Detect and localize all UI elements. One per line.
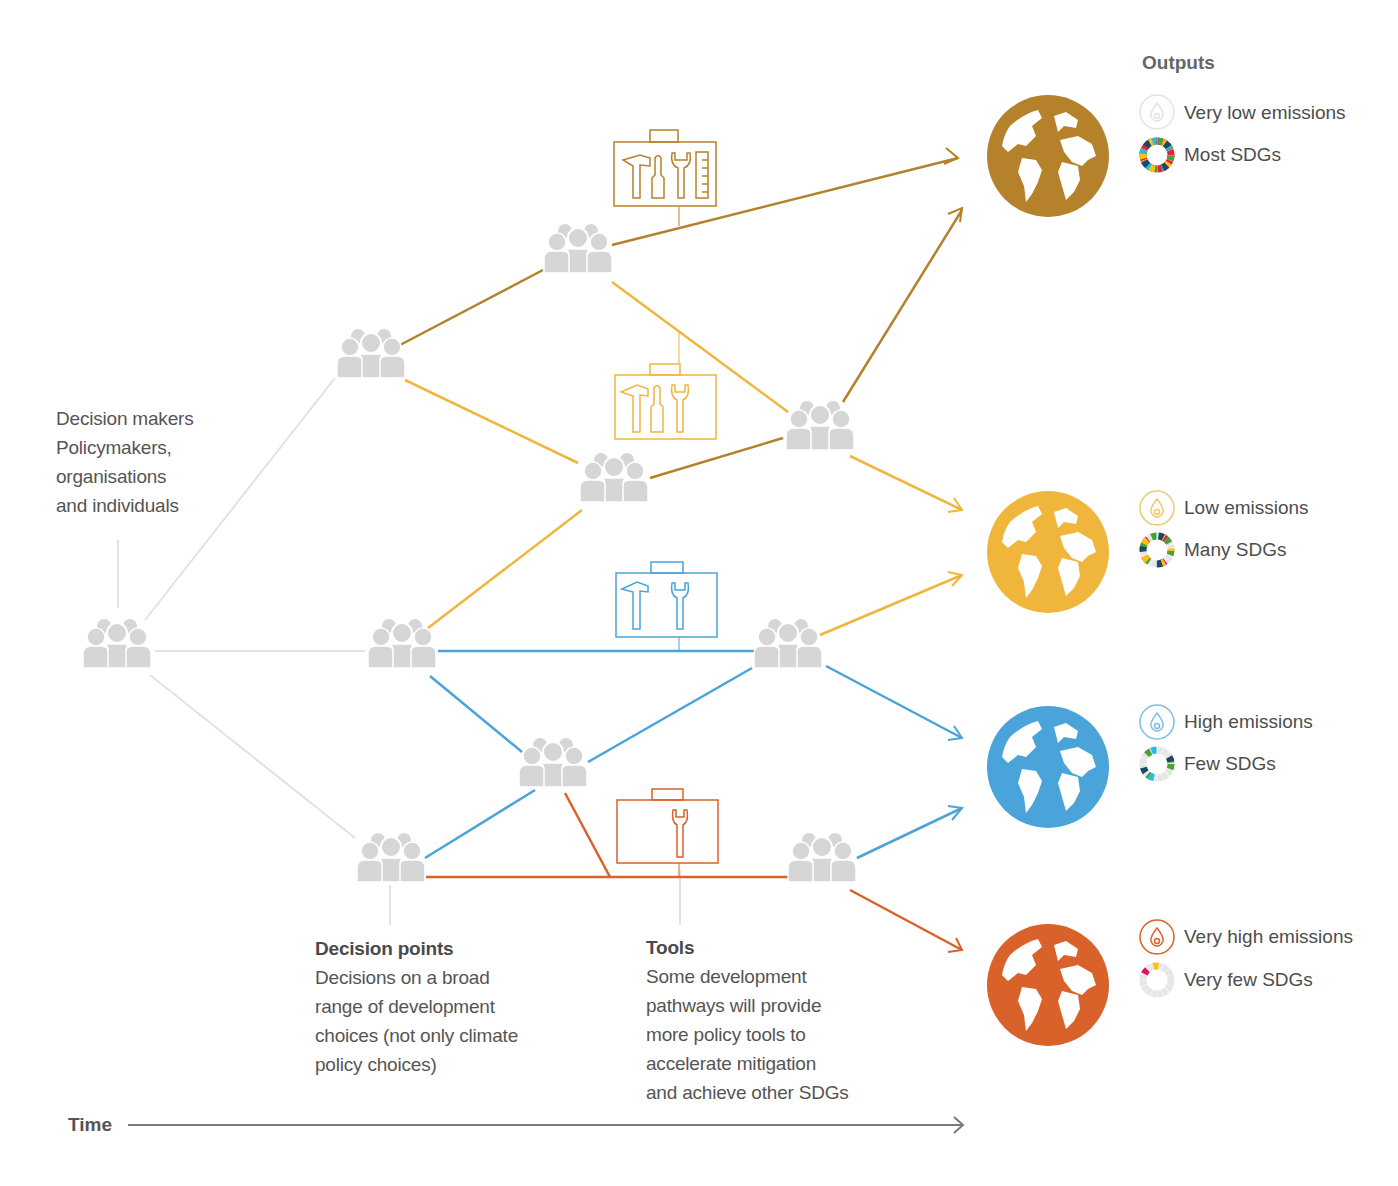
time-axis-arrow (128, 1117, 963, 1133)
legend-emissions-label: High emissions (1184, 711, 1313, 733)
tools-heading: Tools (646, 933, 849, 962)
time-axis-label: Time (68, 1114, 112, 1136)
tools-annotation: Tools Some development pathways will pro… (646, 933, 849, 1107)
legend-item-many-sdgs: Many SDGs (1138, 533, 1286, 567)
legend-sdgs-label: Many SDGs (1184, 539, 1286, 561)
legend-item-high-emissions: High emissions (1138, 705, 1313, 739)
decision-point-icon (357, 833, 425, 882)
legend-item-few-sdgs: Few SDGs (1138, 747, 1276, 781)
decision-makers-annotation: Decision makers Policymakers, organisati… (56, 404, 193, 520)
legend-emissions-label: Very low emissions (1184, 102, 1346, 124)
legend-sdgs-label: Few SDGs (1184, 753, 1276, 775)
legend-item-very-few-sdgs: Very few SDGs (1138, 963, 1313, 997)
legend-emissions-label: Low emissions (1184, 497, 1309, 519)
legend-item-low-emissions: Low emissions (1138, 491, 1309, 525)
pathway-low (405, 282, 962, 635)
decision-point-icon (519, 738, 587, 787)
legend-title: Outputs (1142, 52, 1215, 74)
toolbox-very-high (617, 789, 718, 863)
pathway-very-high (426, 793, 962, 952)
toolbox-high (616, 562, 717, 637)
toolbox-very-low (614, 130, 716, 206)
decision-makers-icon (83, 619, 151, 668)
globe-high-icon (987, 706, 1109, 828)
globe-very-low-icon (987, 95, 1109, 217)
decision-point-icon (368, 619, 436, 668)
legend-sdgs-label: Very few SDGs (1184, 969, 1313, 991)
toolbox-low (615, 364, 716, 439)
decision-point-icon (544, 224, 612, 273)
decision-point-icon (754, 619, 822, 668)
decision-points-annotation: Decision points Decisions on a broad ran… (315, 934, 518, 1079)
legend-emissions-label: Very high emissions (1184, 926, 1353, 948)
globe-low-icon (987, 491, 1109, 613)
decision-points-heading: Decision points (315, 934, 518, 963)
pathway-high (425, 637, 962, 858)
legend-item-most-sdgs: Most SDGs (1138, 138, 1281, 172)
decision-point-icon (580, 453, 648, 502)
globe-very-high-icon (987, 924, 1109, 1046)
legend-item-very-high-emissions: Very high emissions (1138, 920, 1353, 954)
legend-sdgs-label: Most SDGs (1184, 144, 1281, 166)
legend-item-very-low-emissions: Very low emissions (1138, 96, 1346, 130)
decision-point-icon (337, 329, 405, 378)
decision-point-icon (788, 833, 856, 882)
decision-point-icon (786, 401, 854, 450)
